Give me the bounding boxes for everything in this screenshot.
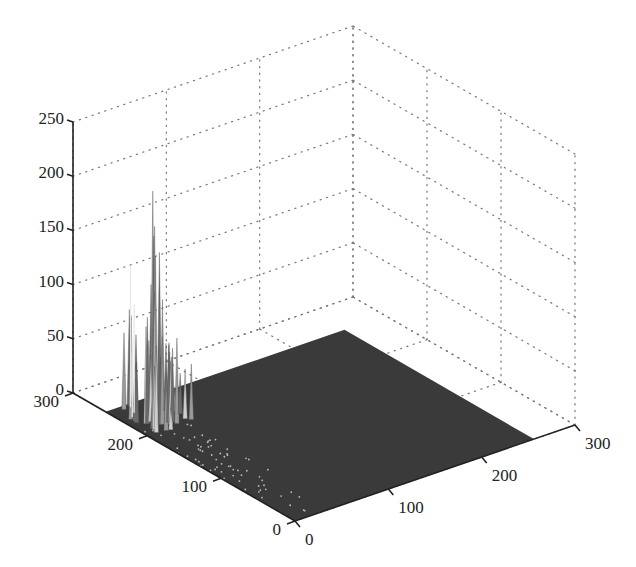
surface-speckle	[221, 463, 223, 465]
surface-speckle	[227, 454, 229, 456]
surface-speckle	[244, 488, 246, 490]
surface-plot: 05010015020025001002003000100200300	[0, 0, 636, 567]
surface-speckle	[187, 455, 189, 457]
z-tick-label: 50	[47, 326, 64, 345]
x-tick-label: 200	[492, 466, 517, 485]
grid-line	[73, 243, 353, 339]
surface-speckle	[223, 456, 225, 458]
surface-speckle	[183, 437, 185, 439]
surface-speckle	[160, 434, 162, 436]
grid-line	[73, 134, 353, 230]
surface-speckle	[187, 424, 189, 426]
x-tick	[575, 425, 580, 431]
surface-speckle	[198, 461, 200, 463]
surface-speckle	[226, 448, 228, 450]
surface-speckle	[258, 491, 260, 493]
y-tick	[287, 521, 295, 524]
grid-line	[353, 243, 575, 371]
x-tick-label: 300	[585, 434, 611, 453]
z-tick	[67, 283, 73, 285]
surface-speckle	[280, 495, 282, 497]
surface-speckle	[230, 465, 232, 467]
x-tick	[295, 521, 300, 527]
surface-speckle	[207, 441, 209, 443]
y-tick-label: 200	[108, 435, 134, 454]
surface-speckle	[232, 469, 234, 471]
surface-speckle	[144, 431, 146, 433]
grid-line	[353, 189, 575, 317]
y-tick-label: 300	[34, 392, 60, 411]
surface-speckle	[245, 457, 247, 459]
surface-speckle	[232, 475, 234, 477]
surface-speckle	[202, 464, 204, 466]
surface-speckle	[215, 459, 217, 461]
surface-speckle	[258, 485, 260, 487]
z-tick-label: 200	[39, 163, 65, 182]
surface-speckle	[259, 476, 261, 478]
z-tick	[67, 228, 73, 230]
y-tick-label: 100	[182, 477, 208, 496]
surface-speckle	[216, 466, 218, 468]
surface-speckle	[219, 453, 221, 455]
surface-speckle	[228, 465, 230, 467]
surface-speckle	[261, 497, 263, 499]
z-tick	[67, 337, 73, 339]
grid-line	[73, 189, 353, 285]
surface-speckle	[239, 480, 241, 482]
z-tick-label: 100	[39, 272, 65, 291]
surface-speckle	[241, 474, 243, 476]
surface-speckle	[289, 504, 291, 506]
surface-speckle	[237, 470, 239, 472]
surface-speckle	[267, 469, 269, 471]
surface-speckle	[211, 454, 213, 456]
y-tick	[213, 478, 221, 481]
surface-speckle	[190, 425, 192, 427]
surface-speckle	[200, 446, 202, 448]
y-tick	[65, 393, 73, 396]
surface-speckle	[194, 436, 196, 438]
surface-speckle	[265, 488, 267, 490]
surface-speckle	[290, 491, 292, 493]
surface-speckle	[198, 448, 200, 450]
surface-speckle	[248, 459, 250, 461]
z-tick	[67, 174, 73, 176]
x-tick-label: 100	[398, 498, 424, 517]
grid-line	[353, 134, 575, 262]
surface-speckle	[303, 509, 305, 511]
surface-speckle	[263, 484, 265, 486]
surface-speckle	[210, 445, 212, 447]
surface-speckle	[221, 471, 223, 473]
surface-speckle	[195, 458, 197, 460]
surface-speckle	[197, 444, 199, 446]
surface-speckle	[246, 470, 248, 472]
z-tick-label: 150	[39, 217, 65, 236]
x-tick	[388, 489, 393, 495]
z-tick	[67, 120, 73, 122]
surface	[106, 191, 534, 521]
surface-speckle	[199, 449, 201, 451]
surface-spike	[122, 333, 126, 410]
grid-line	[73, 80, 353, 176]
y-tick	[139, 436, 147, 439]
grid-line	[353, 26, 575, 154]
surface-speckle	[176, 447, 178, 449]
grid-line	[73, 26, 353, 122]
surface-speckle	[202, 450, 204, 452]
grid-line	[353, 80, 575, 208]
surface-speckle	[214, 469, 216, 471]
x-tick	[482, 457, 487, 463]
surface-speckle	[261, 479, 263, 481]
y-tick-label: 0	[273, 520, 282, 539]
surface-speckle	[189, 439, 191, 441]
surface-speckle	[209, 439, 211, 441]
surface-speckle	[215, 439, 217, 441]
surface-speckle	[201, 434, 203, 436]
surface-speckle	[174, 433, 176, 435]
surface-speckle	[208, 446, 210, 448]
x-tick-label: 0	[305, 530, 314, 549]
surface-speckle	[298, 496, 300, 498]
surface-speckle	[259, 489, 261, 491]
z-tick-label: 250	[39, 109, 65, 128]
